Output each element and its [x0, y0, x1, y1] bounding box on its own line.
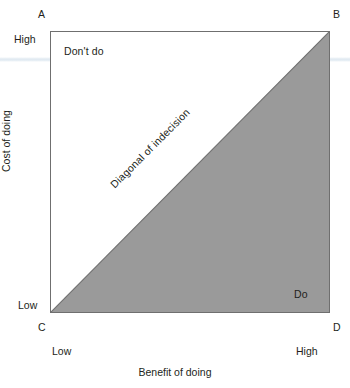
shaded-region-svg: [51, 32, 329, 312]
y-axis-tick-low: Low: [18, 299, 37, 311]
decision-matrix-figure: Don't do Do Diagonal of indecision A B C…: [0, 0, 350, 388]
plot-inner: [51, 32, 329, 312]
plot-area: [50, 31, 330, 313]
x-axis-title: Benefit of doing: [0, 366, 350, 378]
corner-label-d: D: [333, 321, 341, 333]
corner-label-a: A: [38, 8, 45, 20]
x-axis-tick-high: High: [296, 345, 318, 357]
corner-label-b: B: [333, 8, 340, 20]
region-label-do: Do: [294, 288, 308, 300]
y-axis-tick-high: High: [14, 33, 36, 45]
region-label-dont-do: Don't do: [64, 45, 104, 57]
y-axis-title: Cost of doing: [0, 110, 12, 172]
x-axis-tick-low: Low: [52, 345, 71, 357]
corner-label-c: C: [38, 321, 46, 333]
